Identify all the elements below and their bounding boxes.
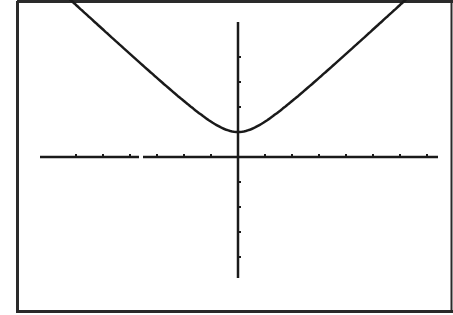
graph-screen (0, 0, 453, 315)
function-plot (0, 0, 453, 315)
axes (40, 22, 438, 278)
